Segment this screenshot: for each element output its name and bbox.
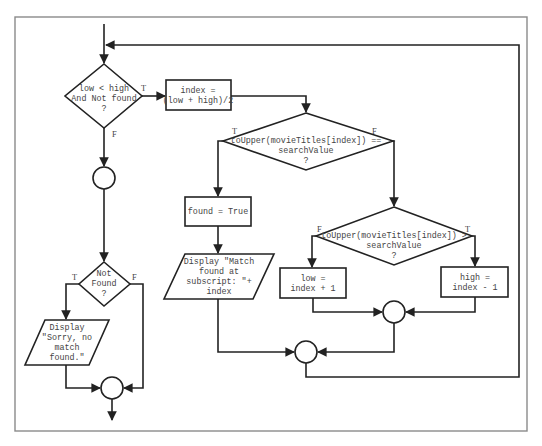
arrow-equal-false [393, 141, 394, 206]
process-set-high: high = index - 1 [441, 267, 508, 297]
decision-equal-line-2: searchValue [278, 146, 333, 156]
display-match-line-2: found at [199, 267, 239, 277]
arrow-sorry-to-merge [66, 365, 100, 388]
arrow-low-to-merge [313, 298, 382, 312]
display-match-line-4: index [206, 287, 231, 297]
io-display-sorry: Display "Sorry, no match found." [25, 320, 109, 365]
arrow-merge-to-merge [318, 323, 394, 352]
connector-merge-not-found [101, 377, 123, 399]
decision-not-found-line-3: ? [101, 289, 106, 299]
decision-not-found: Not Found ? T F [72, 262, 137, 306]
decision-loop-false-label: F [112, 130, 117, 139]
process-set-low: low = index + 1 [280, 268, 346, 298]
decision-greater-true-label: T [465, 225, 470, 234]
arrow-not-found-true [66, 284, 79, 319]
decision-loop-line-2: And Not found [71, 94, 136, 104]
decision-not-found-false-label: F [132, 273, 137, 282]
decision-equal-line-3: ? [303, 156, 308, 166]
connector-merge-low-high [383, 301, 405, 323]
process-calc-index: index = (low + high)/2 [163, 80, 233, 110]
decision-greater-line-3: ? [391, 251, 396, 261]
arrow-greater-true [472, 236, 475, 266]
arrow-not-found-false [124, 284, 143, 388]
arrow-index-to-equal [231, 96, 306, 112]
set-high-line-2: index - 1 [452, 283, 497, 293]
decision-not-found-true-label: T [72, 273, 77, 282]
set-high-line-1: high = [460, 273, 490, 283]
display-sorry-line-3: match [54, 343, 79, 353]
decision-loop-condition: low < high And Not found ? T F [65, 64, 146, 139]
io-display-match: Display "Match found at subscript: "+ in… [164, 254, 274, 299]
set-low-line-1: low = [300, 274, 325, 284]
decision-greater-line-2: searchValue [366, 241, 421, 251]
decision-greater-false-label: F [317, 225, 322, 234]
decision-greater: toUpper(movieTitles[index]) > searchValu… [316, 207, 472, 265]
decision-equal-line-1: toUpper(movieTitles[index]) == [231, 136, 382, 146]
arrow-equal-true [218, 141, 223, 196]
calc-index-line-2: (low + high)/2 [163, 96, 233, 106]
calc-index-line-1: index = [180, 86, 215, 96]
flowchart-canvas: low < high And Not found ? T F index = (… [0, 0, 542, 446]
display-sorry-line-2: "Sorry, no [42, 333, 92, 343]
display-match-line-3: subscript: "+ [186, 277, 251, 287]
decision-loop-line-3: ? [101, 104, 106, 114]
set-found-text: found = True [188, 207, 248, 217]
set-low-line-2: index + 1 [290, 284, 335, 294]
decision-loop-line-1: low < high [79, 84, 129, 94]
arrow-greater-false [312, 236, 316, 267]
arrow-high-to-merge [406, 297, 475, 312]
decision-equal: toUpper(movieTitles[index]) == searchVal… [223, 113, 393, 170]
connector-after-loop [93, 167, 115, 189]
decision-not-found-line-1: Not [96, 269, 111, 279]
connector-merge-equal [295, 341, 317, 363]
display-sorry-line-1: Display [49, 323, 84, 333]
decision-greater-line-1: toUpper(movieTitles[index]) > [321, 231, 467, 241]
decision-equal-true-label: T [232, 127, 237, 136]
decision-equal-false-label: F [372, 127, 377, 136]
decision-not-found-line-2: Found [91, 279, 116, 289]
display-match-line-1: Display "Match [184, 257, 254, 267]
display-sorry-line-4: found." [49, 353, 84, 363]
decision-loop-true-label: T [141, 84, 146, 93]
arrow-match-to-merge [218, 299, 294, 352]
process-set-found: found = True [185, 197, 251, 226]
